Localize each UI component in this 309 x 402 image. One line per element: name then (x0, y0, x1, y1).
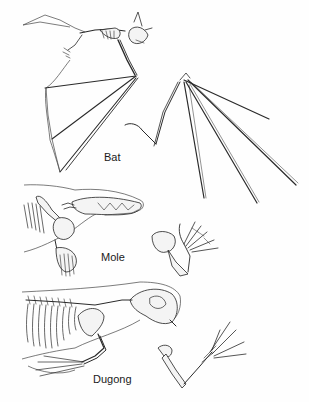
mole-label: Mole (101, 252, 125, 263)
homologous-limbs-figure: Bat Mole Dugong (0, 0, 309, 402)
skeleton-illustrations (0, 0, 309, 402)
dugong-label: Dugong (93, 374, 132, 385)
dugong-skeleton (22, 282, 246, 388)
bat-skeleton (23, 12, 298, 203)
bat-label: Bat (104, 152, 121, 163)
